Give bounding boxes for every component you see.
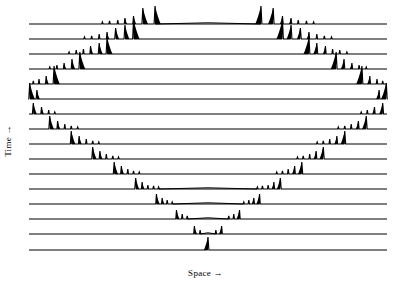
plot-canvas	[0, 0, 411, 285]
x-axis-label-container: Space →	[0, 262, 411, 280]
waterfall-plot-figure: Time → Space →	[0, 0, 411, 285]
y-axis-label-container: Time →	[0, 96, 16, 186]
x-axis-label: Space →	[188, 268, 223, 278]
plot-background	[0, 0, 411, 285]
y-axis-label: Time →	[3, 125, 13, 157]
